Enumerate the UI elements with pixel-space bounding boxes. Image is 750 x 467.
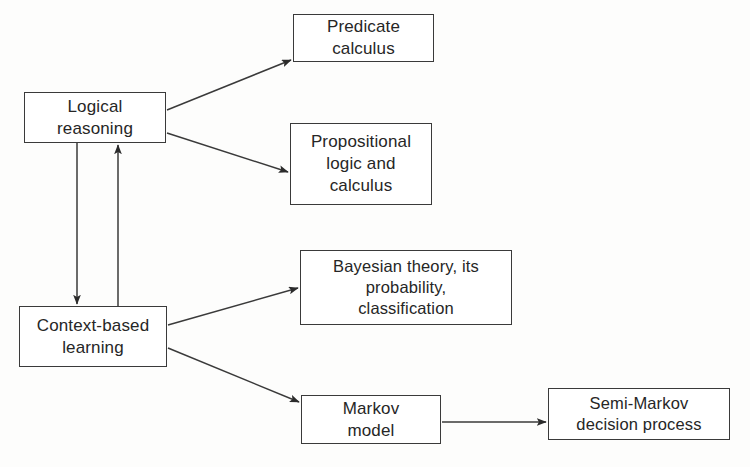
diagram-canvas: Logical reasoning Predicate calculus Pro… — [0, 0, 750, 467]
node-label: Semi-Markov decision process — [572, 393, 705, 435]
node-propositional-logic[interactable]: Propositional logic and calculus — [290, 123, 432, 205]
node-label: Predicate calculus — [323, 16, 404, 60]
node-context-based-learning[interactable]: Context-based learning — [19, 306, 167, 367]
edge-context-based-learning-to-bayesian-theory — [168, 288, 298, 325]
edge-logical-reasoning-to-propositional-logic — [167, 133, 288, 172]
node-label: Logical reasoning — [53, 96, 137, 140]
node-logical-reasoning[interactable]: Logical reasoning — [24, 92, 166, 143]
edge-context-based-learning-to-markov-model — [168, 348, 299, 402]
node-label: Propositional logic and calculus — [307, 131, 415, 196]
node-label: Bayesian theory, its probability, classi… — [329, 256, 483, 319]
node-bayesian-theory[interactable]: Bayesian theory, its probability, classi… — [300, 250, 512, 325]
node-label: Context-based learning — [33, 315, 154, 359]
node-label: Markov model — [339, 398, 404, 442]
node-markov-model[interactable]: Markov model — [301, 395, 441, 444]
node-semi-markov-decision[interactable]: Semi-Markov decision process — [548, 388, 730, 440]
edge-logical-reasoning-to-predicate-calculus — [167, 60, 291, 110]
node-predicate-calculus[interactable]: Predicate calculus — [293, 14, 434, 62]
